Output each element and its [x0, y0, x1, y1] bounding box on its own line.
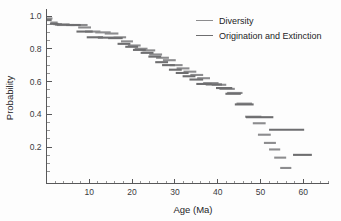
survival-curve-chart: 102030405060 0.20.40.60.81.0 Age (Ma) Pr…	[0, 0, 341, 221]
x-tick-label: 50	[256, 187, 266, 197]
legend-label-origination-extinction: Origination and Extinction	[219, 31, 322, 41]
x-tick-label: 20	[127, 187, 137, 197]
y-axis-major-ticks	[47, 16, 52, 147]
series-diversity	[47, 18, 292, 168]
data-series-layer	[47, 18, 312, 168]
y-tick-label: 0.6	[30, 77, 42, 87]
y-tick-label: 0.2	[30, 142, 42, 152]
y-axis-tick-labels: 0.20.40.60.81.0	[30, 11, 42, 152]
y-tick-label: 1.0	[30, 11, 42, 21]
x-axis-title: Age (Ma)	[173, 204, 212, 215]
x-axis-tick-labels: 102030405060	[85, 187, 309, 197]
y-tick-label: 0.4	[30, 109, 42, 119]
legend-label-diversity: Diversity	[219, 16, 254, 26]
x-tick-label: 30	[170, 187, 180, 197]
y-axis-title: Probability	[4, 76, 15, 121]
x-tick-label: 60	[299, 187, 309, 197]
y-tick-label: 0.8	[30, 44, 42, 54]
legend: Diversity Origination and Extinction	[196, 16, 322, 41]
x-axis-major-ticks	[89, 179, 303, 184]
x-tick-label: 40	[213, 187, 223, 197]
figure-container: 102030405060 0.20.40.60.81.0 Age (Ma) Pr…	[0, 0, 341, 221]
x-tick-label: 10	[85, 187, 95, 197]
